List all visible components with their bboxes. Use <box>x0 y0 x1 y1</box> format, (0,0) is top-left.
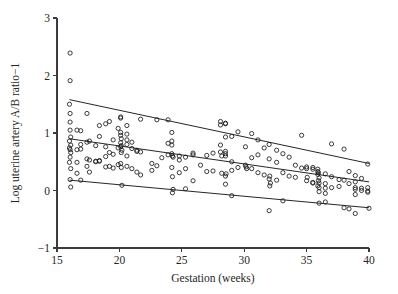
data-point <box>177 158 181 162</box>
data-point <box>220 171 224 175</box>
data-point <box>67 160 71 164</box>
data-point <box>267 209 271 213</box>
data-point <box>68 51 72 55</box>
data-point <box>250 167 254 171</box>
data-point <box>87 170 91 174</box>
data-point <box>256 153 260 157</box>
data-point <box>69 150 73 154</box>
data-point <box>218 150 222 154</box>
y-axis-ticks: −10123 <box>38 12 57 254</box>
data-point <box>139 117 143 121</box>
data-point <box>119 165 123 169</box>
data-point <box>267 177 271 181</box>
data-point <box>170 139 174 143</box>
data-point <box>125 154 129 158</box>
data-point <box>275 148 279 152</box>
data-point <box>262 173 266 177</box>
data-point <box>275 178 279 182</box>
lower-centile-line <box>69 180 369 208</box>
data-point <box>135 170 139 174</box>
data-point <box>150 161 154 165</box>
data-point <box>211 169 215 173</box>
y-tick-label: 3 <box>44 12 50 24</box>
data-point <box>243 145 247 149</box>
data-point <box>85 164 89 168</box>
data-point <box>97 123 101 127</box>
data-point <box>125 123 129 127</box>
data-point <box>125 138 129 142</box>
data-point <box>68 177 72 181</box>
data-point <box>94 144 98 148</box>
data-point <box>250 156 254 160</box>
y-axis-title: Log uterine artery A/B ratio−1 <box>9 62 22 203</box>
data-point <box>116 126 120 130</box>
data-point <box>75 160 79 164</box>
data-point <box>111 138 115 142</box>
data-point <box>211 151 215 155</box>
data-point <box>104 145 108 149</box>
x-axis-ticks: 152025303540 <box>51 248 375 266</box>
data-point <box>323 191 327 195</box>
data-points-layer <box>67 51 371 216</box>
x-tick-label: 25 <box>176 254 188 266</box>
data-point <box>150 168 154 172</box>
data-point <box>205 169 209 173</box>
data-point <box>130 140 134 144</box>
data-point <box>68 155 72 159</box>
data-point <box>267 142 271 146</box>
data-point <box>268 184 272 188</box>
data-point <box>170 165 174 169</box>
data-point <box>67 102 71 106</box>
x-axis-title: Gestation (weeks) <box>171 272 255 285</box>
data-point <box>342 147 346 151</box>
x-tick-label: 20 <box>114 254 126 266</box>
data-point <box>111 152 115 156</box>
y-tick-label: 1 <box>44 127 50 139</box>
data-point <box>359 176 363 180</box>
data-point <box>353 192 357 196</box>
scatter-plot-figure: −10123 152025303540 Gestation (weeks) Lo… <box>0 0 398 294</box>
y-tick-label: −1 <box>38 242 50 254</box>
data-point <box>230 168 234 172</box>
data-point <box>97 134 101 138</box>
data-point <box>347 169 351 173</box>
data-point <box>347 207 351 211</box>
data-point <box>170 130 174 134</box>
y-tick-label: 0 <box>44 185 50 197</box>
data-point <box>317 190 321 194</box>
data-point <box>236 165 240 169</box>
data-point <box>68 128 72 132</box>
data-point <box>79 142 83 146</box>
data-point <box>353 211 357 215</box>
data-point <box>183 167 187 171</box>
data-point <box>223 135 227 139</box>
data-point <box>125 142 129 146</box>
data-point <box>130 167 134 171</box>
data-point <box>300 166 304 170</box>
data-point <box>85 111 89 115</box>
data-point <box>69 167 73 171</box>
data-point <box>68 79 72 83</box>
data-point <box>177 171 181 175</box>
data-point <box>262 146 266 150</box>
data-point <box>323 186 327 190</box>
data-point <box>367 206 371 210</box>
data-point <box>205 153 209 157</box>
data-point <box>223 182 227 186</box>
data-point <box>170 175 174 179</box>
data-point <box>160 156 164 160</box>
data-point <box>275 160 279 164</box>
data-point <box>329 142 333 146</box>
data-point <box>104 154 108 158</box>
data-point <box>125 164 129 168</box>
data-point <box>329 186 333 190</box>
data-point <box>281 152 285 156</box>
data-point <box>198 163 202 167</box>
data-point <box>267 157 271 161</box>
data-point <box>353 173 357 177</box>
plot-canvas: −10123 152025303540 Gestation (weeks) Lo… <box>0 0 398 294</box>
data-point <box>236 130 240 134</box>
data-point <box>293 163 297 167</box>
data-point <box>337 184 341 188</box>
data-point <box>69 185 73 189</box>
